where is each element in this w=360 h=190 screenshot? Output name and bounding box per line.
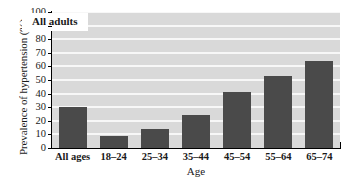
y-axis-tick-mark [48, 94, 52, 95]
gridline [52, 12, 340, 13]
x-axis-line [51, 148, 341, 149]
y-axis-tick-label: 80 [18, 34, 46, 45]
y-axis-tick-mark [48, 12, 52, 13]
bar [182, 115, 210, 148]
y-axis-tick-label: 30 [18, 102, 46, 113]
gridline [52, 79, 340, 81]
annotation-all-adults: All adults [22, 13, 88, 31]
bar-chart-figure: Prevalence of hypertension (%) 010203040… [0, 0, 360, 190]
bar [305, 61, 333, 148]
y-axis-tick-label: 40 [18, 89, 46, 100]
x-axis-end-tick [340, 142, 341, 149]
y-axis-tick-mark [48, 134, 52, 135]
y-axis-tick-mark [48, 107, 52, 108]
x-axis-tick-label: 55–64 [258, 150, 299, 163]
y-axis-tick-labels: 0102030405060708090100 [18, 12, 46, 148]
gridline [52, 38, 340, 40]
x-axis-title: Age [52, 165, 340, 178]
bar [223, 92, 251, 148]
plot-area [52, 12, 340, 148]
x-axis-tick-labels: All ages18–2425–3435–4445–5455–6465–74 [52, 150, 340, 164]
y-axis-tick-label: 10 [18, 129, 46, 140]
y-axis-tick-mark [48, 26, 52, 27]
y-axis-tick-label: 50 [18, 75, 46, 86]
x-axis-tick-label: 18–24 [93, 150, 134, 163]
y-axis-tick-mark [48, 66, 52, 67]
x-axis-tick-label: 45–54 [217, 150, 258, 163]
x-axis-tick-label: 35–44 [175, 150, 216, 163]
bar [141, 129, 169, 148]
y-axis-tick-label: 60 [18, 61, 46, 72]
gridline [52, 65, 340, 67]
x-axis-tick-label: All ages [52, 150, 93, 163]
x-axis-tick-label: 25–34 [134, 150, 175, 163]
y-axis-tick-mark [48, 39, 52, 40]
y-axis-tick-label: 20 [18, 116, 46, 127]
gridline [52, 106, 340, 108]
bar [264, 76, 292, 148]
x-axis-tick-label: 65–74 [299, 150, 340, 163]
y-axis-tick-mark [48, 121, 52, 122]
y-axis-tick-label: 70 [18, 48, 46, 59]
gridline [52, 52, 340, 54]
y-axis-tick-mark [48, 53, 52, 54]
y-axis-tick-mark [48, 148, 52, 149]
y-axis-tick-mark [48, 80, 52, 81]
bar [59, 107, 87, 148]
gridline [52, 25, 340, 27]
bar [100, 136, 128, 148]
y-axis-tick-label: 0 [18, 143, 46, 154]
gridline [52, 93, 340, 95]
